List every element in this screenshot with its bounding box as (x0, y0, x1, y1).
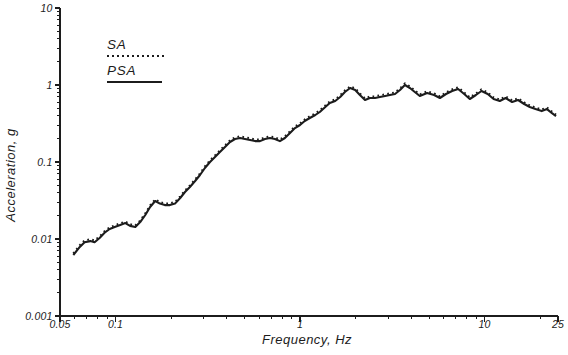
y-tick-label: 10 (40, 2, 52, 14)
x-tick-label: 10 (478, 318, 490, 330)
psa-curve (73, 85, 556, 255)
y-tick-label: 1 (46, 79, 52, 91)
y-axis-title: Acceleration, g (3, 127, 19, 223)
x-tick-label: 0.05 (49, 318, 70, 330)
y-tick-label: 0.01 (31, 233, 52, 245)
x-tick-label: 1 (297, 318, 303, 330)
legend: SA PSA (107, 37, 165, 89)
chart-canvas: 0.050.1110250.0010.010.1110 (0, 0, 568, 355)
figure: 0.050.1110250.0010.010.1110 Acceleration… (0, 0, 568, 355)
legend-solid-line-sample (107, 81, 162, 83)
legend-dotted-line-sample (107, 55, 165, 57)
y-tick-label: 0.1 (37, 156, 52, 168)
legend-label-psa: PSA (107, 63, 165, 78)
legend-label-sa: SA (107, 37, 165, 52)
legend-item-psa: PSA (107, 63, 165, 83)
x-tick-label: 25 (551, 318, 564, 330)
legend-item-sa: SA (107, 37, 165, 57)
y-tick-label: 0.001 (25, 310, 52, 322)
x-tick-label: 0.1 (108, 318, 123, 330)
x-axis-title: Frequency, Hz (232, 332, 382, 348)
sa-curve (73, 83, 556, 253)
